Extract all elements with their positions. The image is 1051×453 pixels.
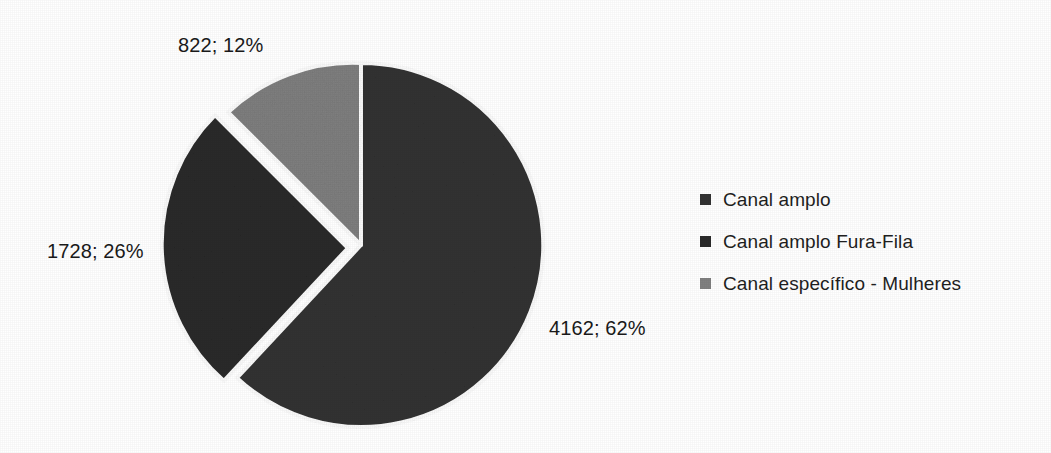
legend-item-label: Canal amplo Fura-Fila [723,232,913,251]
legend-swatch-icon [700,236,711,247]
legend-item-label: Canal específico - Mulheres [723,274,961,293]
data-label-canal-amplo: 4162; 62% [549,318,646,338]
legend-item-canal-especifico-mulheres[interactable]: Canal específico - Mulheres [700,262,1040,304]
legend-swatch-icon [700,194,711,205]
data-label-canal-especifico-mulheres: 822; 12% [178,35,263,55]
legend-swatch-icon [700,278,711,289]
chart-legend: Canal amplo Canal amplo Fura-Fila Canal … [700,178,1040,304]
pie-plot-area: 822; 12% 1728; 26% 4162; 62% [0,0,660,453]
data-label-canal-amplo-fura-fila: 1728; 26% [47,241,144,261]
pie-svg [0,0,660,453]
legend-item-label: Canal amplo [723,190,831,209]
pie-chart: 822; 12% 1728; 26% 4162; 62% Canal amplo… [0,0,1051,453]
legend-item-canal-amplo-fura-fila[interactable]: Canal amplo Fura-Fila [700,220,1040,262]
legend-item-canal-amplo[interactable]: Canal amplo [700,178,1040,220]
